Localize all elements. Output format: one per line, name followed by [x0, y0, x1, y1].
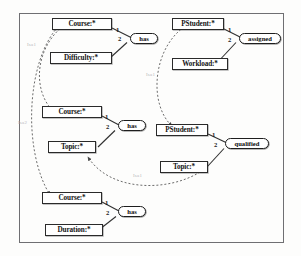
relation-has-duration[interactable]: has: [118, 206, 146, 217]
edges-group-has-difficulty: [110, 28, 131, 58]
attribute-workload[interactable]: Workload:*: [172, 58, 228, 70]
port-label-2-group4: 2: [214, 142, 217, 149]
port-label-1-group3: 1: [105, 114, 108, 121]
attribute-topic-left[interactable]: Topic:*: [48, 141, 96, 153]
port-label-2-group3: 2: [106, 124, 109, 131]
entity-course-middle[interactable]: Course:*: [42, 106, 102, 118]
isa-label-pstudent-top-middle: Isa1: [146, 72, 155, 77]
relation-assigned[interactable]: assigned: [239, 33, 281, 44]
diagram-canvas: Course:* 1 has 2 Difficulty:* PStudent:*…: [0, 0, 301, 256]
isa-edge-course-top-middle: [39, 26, 63, 110]
port-label-2-group2: 2: [228, 37, 231, 44]
port-label-1-group5: 1: [105, 200, 108, 207]
isa-label-course-top-middle: Isa1: [27, 42, 36, 47]
isa-edge-pstudent-top-middle: [157, 27, 184, 126]
entity-pstudent-top[interactable]: PStudent:*: [172, 18, 224, 30]
isa-label-course-top-bottom: Isa2: [18, 120, 27, 125]
port-label-2-group5: 2: [106, 210, 109, 217]
port-label-2-group1: 2: [118, 36, 121, 43]
edges-group-qualified-topic: [207, 134, 226, 167]
port-label-1-group2: 1: [228, 27, 231, 34]
attribute-duration[interactable]: Duration:*: [45, 224, 103, 236]
port-label-1-group4: 1: [212, 132, 215, 139]
relation-qualified[interactable]: qualified: [225, 138, 269, 149]
port-label-1-group1: 1: [116, 27, 119, 34]
relation-has-topic[interactable]: has: [118, 120, 146, 131]
edges-group-has-topic: [98, 116, 119, 147]
entity-course-top[interactable]: Course:*: [52, 18, 112, 30]
relation-has-difficulty[interactable]: has: [130, 33, 158, 44]
entity-pstudent-middle[interactable]: PStudent:*: [156, 124, 208, 136]
entity-course-bottom[interactable]: Course:*: [42, 192, 102, 204]
isa-label-topic-right-left: Isa1: [133, 173, 142, 178]
attribute-topic-right[interactable]: Topic:*: [160, 161, 208, 173]
attribute-difficulty[interactable]: Difficulty:*: [50, 52, 112, 64]
